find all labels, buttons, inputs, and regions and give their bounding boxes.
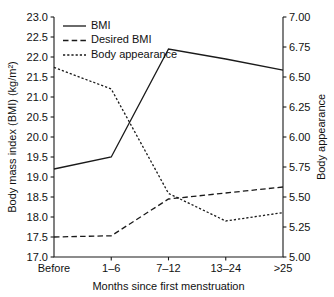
line-chart: 17.017.518.018.519.019.520.020.521.021.5… [0, 0, 334, 297]
x-axis: Before1–67–1213–24>25 [38, 257, 293, 274]
y-axis-right-tick-label: 5.75 [289, 161, 310, 173]
series-line-bmi [54, 49, 283, 169]
x-axis-title: Months since first menstruation [92, 280, 244, 292]
legend-label-desired-bmi: Desired BMI [91, 33, 152, 45]
y-axis-right-tick-label: 6.50 [289, 71, 310, 83]
y-axis-left-tick-label: 17.5 [27, 231, 48, 243]
y-axis-right-title: Body appearance [315, 94, 327, 180]
y-axis-left: 17.017.518.018.519.019.520.020.521.021.5… [27, 11, 54, 263]
y-axis-left-tick-label: 22.5 [27, 31, 48, 43]
series-line-body-appearance [54, 67, 283, 221]
x-axis-tick-label: >25 [274, 262, 293, 274]
y-axis-right-tick-label: 7.00 [289, 11, 310, 23]
y-axis-left-tick-label: 20.5 [27, 111, 48, 123]
legend-label-bmi: BMI [91, 19, 111, 31]
x-axis-tick-label: 1–6 [102, 262, 120, 274]
y-axis-right-tick-label: 6.00 [289, 131, 310, 143]
chart-legend: BMIDesired BMIBody appearance [63, 19, 177, 60]
y-axis-left-tick-label: 23.0 [27, 11, 48, 23]
x-axis-tick-label: Before [38, 262, 70, 274]
series-line-desired-bmi [54, 187, 283, 237]
chart-figure: 17.017.518.018.519.019.520.020.521.021.5… [0, 0, 334, 297]
x-axis-tick-label: 13–24 [210, 262, 241, 274]
y-axis-left-title: Body mass index (BMI) (kg/m²) [6, 61, 18, 213]
y-axis-left-tick-label: 19.0 [27, 171, 48, 183]
y-axis-right: 5.005.255.505.756.006.256.506.757.00 [283, 11, 310, 263]
y-axis-right-tick-label: 6.25 [289, 101, 310, 113]
y-axis-left-tick-label: 19.5 [27, 151, 48, 163]
legend-label-body-appearance: Body appearance [91, 48, 177, 60]
y-axis-right-tick-label: 5.25 [289, 221, 310, 233]
y-axis-left-tick-label: 20.0 [27, 131, 48, 143]
y-axis-right-tick-label: 6.75 [289, 41, 310, 53]
y-axis-left-tick-label: 21.5 [27, 71, 48, 83]
y-axis-left-tick-label: 18.5 [27, 191, 48, 203]
y-axis-left-tick-label: 18.0 [27, 211, 48, 223]
y-axis-left-tick-label: 22.0 [27, 51, 48, 63]
series-container [54, 49, 283, 237]
y-axis-right-tick-label: 5.50 [289, 191, 310, 203]
y-axis-left-tick-label: 21.0 [27, 91, 48, 103]
x-axis-tick-label: 7–12 [156, 262, 180, 274]
